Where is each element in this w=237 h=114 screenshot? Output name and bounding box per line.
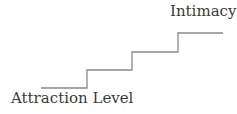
intimacy-label: Intimacy xyxy=(170,4,236,19)
staircase-line xyxy=(41,33,223,88)
attraction-level-label: Attraction Level xyxy=(11,91,133,106)
